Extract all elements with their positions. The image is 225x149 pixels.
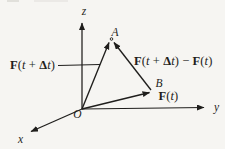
point-b-label: B — [155, 78, 162, 90]
z-axis-label: z — [82, 6, 86, 18]
diagram-canvas — [0, 0, 225, 149]
vector-difference-diagram: z y x O A B F(t + Δt) F(t + Δt) − F(t) F… — [0, 0, 225, 149]
x-axis-label: x — [18, 134, 23, 146]
vector-oa-line — [82, 43, 109, 110]
label-leader-line — [58, 65, 100, 66]
vector-difference-label: F(t + Δt) − F(t) — [134, 55, 212, 68]
vector-ob-line — [82, 93, 150, 110]
origin-label: O — [73, 109, 81, 121]
y-axis-line — [82, 108, 204, 110]
vector-ob-label: F(t) — [159, 90, 179, 103]
vector-oa-label: F(t + Δt) — [10, 59, 55, 72]
y-axis-label: y — [214, 102, 219, 114]
point-a-label: A — [111, 27, 118, 39]
